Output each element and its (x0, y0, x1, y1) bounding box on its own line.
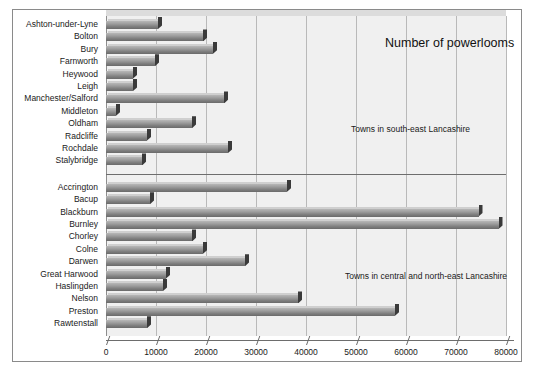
bar-top-face (108, 219, 500, 221)
bar-end-cap (203, 242, 207, 254)
bar (106, 145, 228, 153)
bar-row (106, 256, 506, 268)
annotation-group-2: Towns in central and north-east Lancashi… (345, 271, 507, 281)
x-tick-label-50000: 50000 (344, 347, 368, 357)
category-label: Nelson (72, 294, 98, 303)
bar-end-cap (287, 180, 291, 192)
bar-end-cap (147, 129, 151, 141)
bar-top-face (108, 118, 193, 120)
bar (106, 21, 158, 29)
bar (106, 221, 499, 229)
category-label: Middleton (61, 107, 98, 116)
chart-title: Number of powerlooms (385, 36, 514, 50)
category-label: Rawtenstall (54, 319, 98, 328)
bar-end-cap (150, 192, 154, 204)
category-label: Great Harwood (40, 270, 98, 279)
bar-top-face (108, 93, 225, 95)
bar-end-cap (147, 316, 151, 328)
category-label: Oldham (68, 119, 98, 128)
bar-top-face (108, 56, 156, 58)
category-label: Preston (69, 307, 98, 316)
bar-end-cap (203, 29, 207, 41)
bar-end-cap (133, 67, 137, 79)
bar-top-face (108, 155, 143, 157)
bar-top-face (108, 306, 396, 308)
bar-top-face (108, 19, 159, 21)
bar-end-cap (228, 141, 232, 153)
x-tick-label-10000: 10000 (144, 347, 168, 357)
plot-area (106, 16, 506, 336)
bar-top-face (108, 69, 134, 71)
bar-row (106, 306, 506, 318)
bar (106, 71, 133, 79)
bar-end-cap (192, 116, 196, 128)
bar-row (106, 231, 506, 243)
bar-row (106, 194, 506, 206)
bar-top-face (108, 207, 480, 209)
bar-row (106, 81, 506, 93)
bar-top-face (108, 281, 164, 283)
category-label: Accrington (58, 183, 98, 192)
category-axis-labels: Ashton-under-LyneBoltonBuryFarnworthHeyw… (13, 16, 102, 336)
bar (106, 308, 395, 316)
bar-end-cap (142, 153, 146, 165)
category-label: Chorley (69, 232, 98, 241)
bar-end-cap (499, 217, 503, 229)
bar-end-cap (245, 254, 249, 266)
bar-end-cap (224, 91, 228, 103)
x-tick-label-20000: 20000 (194, 347, 218, 357)
x-tick-label-30000: 30000 (244, 347, 268, 357)
bar (106, 258, 245, 266)
bar-top-face (108, 182, 288, 184)
x-tick-label-0: 0 (104, 347, 109, 357)
bar-top-face (108, 293, 299, 295)
bar (106, 157, 142, 165)
bar-top-face (108, 44, 214, 46)
bar (106, 33, 203, 41)
bar-top-face (108, 269, 167, 271)
bar-top-face (108, 131, 148, 133)
bar-row (106, 143, 506, 155)
bar-row (106, 19, 506, 31)
bar-top-face (108, 106, 117, 108)
bar-row (106, 318, 506, 330)
category-label: Heywood (63, 70, 98, 79)
bar-end-cap (133, 79, 137, 91)
bar (106, 58, 155, 66)
bar-end-cap (213, 42, 217, 54)
category-label: Colne (76, 245, 98, 254)
bar (106, 295, 298, 303)
bar-row (106, 182, 506, 194)
category-label: Stalybridge (55, 156, 98, 165)
bar-end-cap (155, 54, 159, 66)
category-label: Darwen (69, 257, 98, 266)
bar-end-cap (158, 17, 162, 29)
bar (106, 46, 213, 54)
x-axis (106, 336, 514, 346)
bar-row (106, 93, 506, 105)
bar (106, 184, 287, 192)
annotation-group-1: Towns in south-east Lancashire (351, 124, 470, 134)
group-divider-line (106, 174, 506, 175)
category-label: Bacup (74, 195, 98, 204)
category-label: Rochdale (62, 144, 98, 153)
x-tick-label-40000: 40000 (294, 347, 318, 357)
bar-top-face (108, 231, 193, 233)
chart-container: Ashton-under-LyneBoltonBuryFarnworthHeyw… (12, 9, 522, 362)
bar (106, 133, 147, 141)
x-tick-label-70000: 70000 (444, 347, 468, 357)
bar (106, 320, 147, 328)
category-label: Farnworth (60, 57, 98, 66)
bar-row (106, 244, 506, 256)
gridline-80000 (506, 16, 507, 336)
bar-row (106, 219, 506, 231)
category-label: Bolton (74, 32, 98, 41)
category-label: Manchester/Salford (24, 94, 98, 103)
bar (106, 83, 133, 91)
bar (106, 246, 203, 254)
bar (106, 209, 479, 217)
bar-end-cap (298, 291, 302, 303)
bar-row (106, 106, 506, 118)
bar-top-face (108, 143, 229, 145)
bar-end-cap (163, 279, 167, 291)
